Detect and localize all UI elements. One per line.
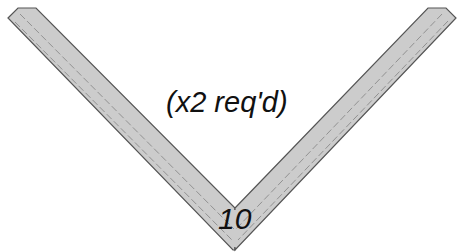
part-number-label: 10 xyxy=(218,202,251,236)
quantity-note: (x2 req'd) xyxy=(166,86,288,119)
right-arm xyxy=(235,8,456,250)
